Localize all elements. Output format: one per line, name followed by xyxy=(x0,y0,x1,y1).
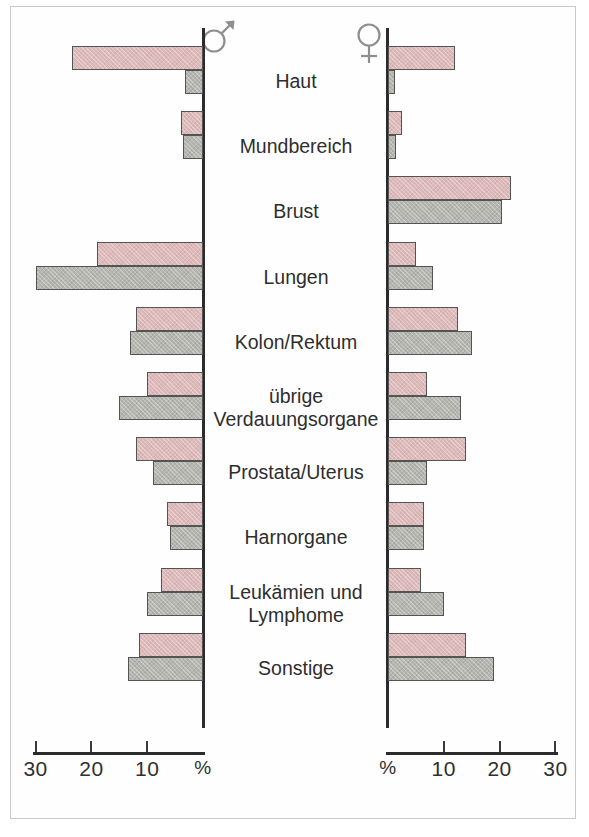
category-label-1: Mundbereich xyxy=(206,135,386,158)
bar-right-1-6 xyxy=(388,461,427,485)
bar-left-1-6 xyxy=(153,461,203,485)
category-label-5: übrigeVerdauungsorgane xyxy=(206,385,386,431)
axis-tick-label-30: 30 xyxy=(13,757,59,781)
cancer-distribution-figure: 302010% %102030 HautMundbereichBrustLung… xyxy=(0,0,589,837)
bar-right-0-8 xyxy=(388,568,421,592)
bar-right-0-0 xyxy=(388,46,455,70)
bar-left-1-0 xyxy=(185,70,203,94)
bar-left-1-1 xyxy=(183,135,203,159)
category-labels-group: HautMundbereichBrustLungenKolon/Rektumüb… xyxy=(206,34,386,752)
bar-right-0-6 xyxy=(388,437,466,461)
male-axis-line xyxy=(33,752,205,755)
bar-left-0-9 xyxy=(139,633,203,657)
axis-tick-10 xyxy=(146,741,148,752)
axis-tick-label-20: 20 xyxy=(477,757,523,781)
bar-right-1-0 xyxy=(388,70,395,94)
axis-tick-label-20: 20 xyxy=(68,757,114,781)
bar-right-1-4 xyxy=(388,331,472,355)
axis-tick-30 xyxy=(554,741,556,752)
axis-tick-label-30: 30 xyxy=(532,757,578,781)
bar-right-1-2 xyxy=(388,200,502,224)
bar-right-0-9 xyxy=(388,633,466,657)
category-label-6: Prostata/Uterus xyxy=(206,461,386,484)
bar-left-1-3 xyxy=(36,266,203,290)
bar-right-0-3 xyxy=(388,242,416,266)
axis-tick-label-%: % xyxy=(180,757,226,779)
bar-right-1-5 xyxy=(388,396,461,420)
axis-tick-20 xyxy=(499,741,501,752)
bar-left-0-1 xyxy=(181,111,203,135)
bar-left-1-9 xyxy=(128,657,203,681)
bar-left-0-8 xyxy=(161,568,203,592)
category-label-2: Brust xyxy=(206,200,386,223)
bar-left-0-3 xyxy=(97,242,203,266)
axis-tick-label-%: % xyxy=(365,757,411,779)
category-label-8: Leukämien undLymphome xyxy=(206,581,386,627)
female-axis-line xyxy=(386,752,558,755)
bar-right-1-9 xyxy=(388,657,494,681)
axis-tick-10 xyxy=(443,741,445,752)
bar-left-0-6 xyxy=(136,437,203,461)
bar-right-0-2 xyxy=(388,176,511,200)
bar-left-0-0 xyxy=(72,46,203,70)
bar-right-0-7 xyxy=(388,502,424,526)
category-label-4: Kolon/Rektum xyxy=(206,331,386,354)
category-label-3: Lungen xyxy=(206,266,386,289)
bar-left-1-7 xyxy=(170,526,203,550)
bar-right-1-8 xyxy=(388,592,444,616)
bar-right-1-3 xyxy=(388,266,433,290)
bar-right-1-1 xyxy=(388,135,396,159)
bar-right-0-5 xyxy=(388,372,427,396)
axis-tick-20 xyxy=(90,741,92,752)
bar-left-0-7 xyxy=(167,502,203,526)
bar-left-0-5 xyxy=(147,372,203,396)
bar-right-0-1 xyxy=(388,111,402,135)
bar-right-0-4 xyxy=(388,307,458,331)
bar-left-0-4 xyxy=(136,307,203,331)
category-label-9: Sonstige xyxy=(206,657,386,680)
axis-tick-30 xyxy=(35,741,37,752)
bar-left-1-5 xyxy=(119,396,203,420)
bar-left-1-4 xyxy=(130,331,203,355)
bar-right-1-7 xyxy=(388,526,424,550)
bar-left-1-8 xyxy=(147,592,203,616)
category-label-0: Haut xyxy=(206,70,386,93)
category-label-7: Harnorgane xyxy=(206,526,386,549)
axis-tick-label-10: 10 xyxy=(421,757,467,781)
axis-tick-label-10: 10 xyxy=(124,757,170,781)
